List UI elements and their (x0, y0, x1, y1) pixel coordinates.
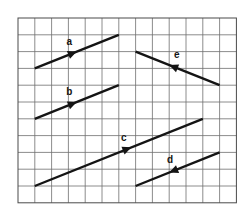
vectors: abcde (35, 35, 220, 186)
vector-label: e (174, 49, 180, 60)
vector-label: c (121, 132, 127, 143)
vector-e: e (136, 49, 220, 85)
vector-label: a (66, 36, 72, 47)
vector-grid-diagram: abcde (0, 0, 248, 213)
grid-border (18, 18, 236, 203)
vector-label: d (167, 154, 173, 165)
grid (18, 18, 236, 203)
vector-label: b (66, 86, 72, 97)
